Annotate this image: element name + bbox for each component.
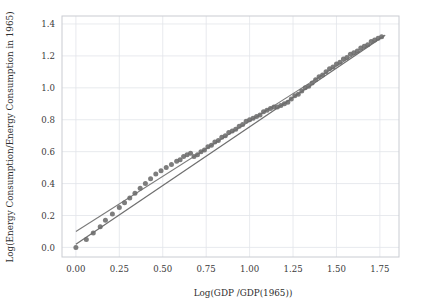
data-point [122,200,127,205]
data-point [132,191,137,196]
x-axis-title: Log(GDP /GDP(1965)) [194,288,293,298]
y-tick-label: 0.2 [41,211,55,221]
chart-page: 0.000.250.500.751.001.251.501.75 0.00.20… [0,0,424,308]
y-tick-label: 0.4 [41,179,55,189]
data-point [138,186,143,191]
data-point [153,172,158,177]
data-point [91,231,96,236]
x-tick-label: 1.50 [327,264,346,274]
x-tick-label: 0.25 [110,264,129,274]
data-point [127,195,132,200]
y-tick-label: 0.0 [41,243,55,253]
data-point [103,218,108,223]
data-point [143,181,148,186]
y-axis-title: Log(Energy Consumption/Energy Consumptio… [5,11,15,262]
y-tick-label: 1.4 [41,19,55,29]
y-tick-label: 0.6 [41,147,55,157]
y-tick-label: 1.0 [41,83,55,93]
data-point [379,34,384,39]
x-tick-label: 1.25 [283,264,302,274]
x-tick-label: 1.00 [240,264,259,274]
data-point [148,176,153,181]
x-tick-label: 0.00 [66,264,85,274]
data-point [73,245,78,250]
data-point [159,168,164,173]
x-tick-label: 0.50 [153,264,172,274]
scatter-chart: 0.000.250.500.751.001.251.501.75 0.00.20… [0,0,424,308]
data-point [164,165,169,170]
data-point [117,205,122,210]
data-point [84,237,89,242]
y-tick-label: 0.8 [41,115,55,125]
y-tick-label: 1.2 [41,51,55,61]
data-point [169,162,174,167]
data-point [110,211,115,216]
x-tick-label: 0.75 [197,264,216,274]
x-tick-label: 1.75 [370,264,389,274]
data-point [98,224,103,229]
